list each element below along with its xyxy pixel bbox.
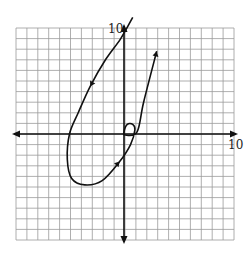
- parametric-graph: [0, 0, 252, 253]
- y-axis-max-label: 10: [108, 22, 123, 36]
- x-axis-max-label: 10: [228, 138, 243, 152]
- curve: [67, 17, 156, 185]
